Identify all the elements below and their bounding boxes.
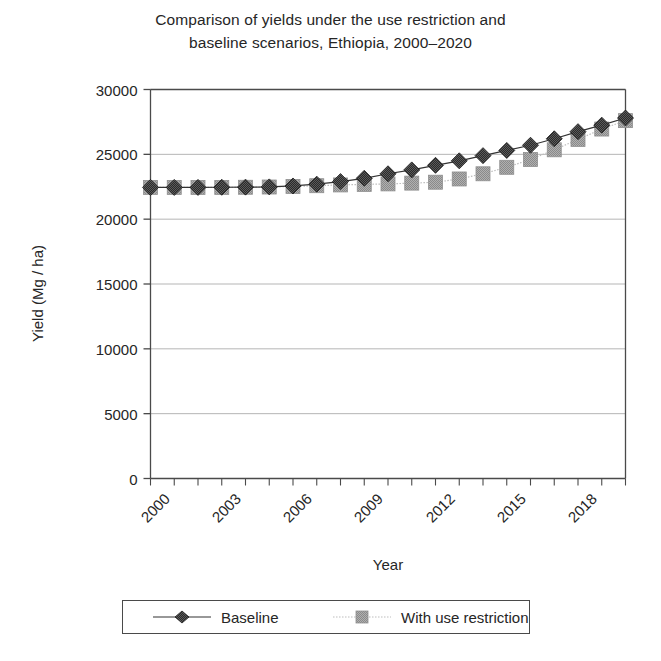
square-marker-icon bbox=[331, 609, 393, 625]
y-tick-label: 10000 bbox=[40, 340, 138, 357]
y-axis-ticks bbox=[144, 90, 151, 479]
y-tick-label: 25000 bbox=[40, 146, 138, 163]
diamond-marker-icon bbox=[151, 609, 213, 625]
legend-entry-with-use-restriction: With use restriction bbox=[331, 601, 529, 633]
y-tick-label: 15000 bbox=[40, 276, 138, 293]
chart-figure: Comparison of yields under the use restr… bbox=[0, 0, 661, 661]
y-tick-label: 5000 bbox=[40, 405, 138, 422]
x-axis-ticks bbox=[151, 479, 626, 486]
legend-entry-baseline: Baseline bbox=[151, 601, 279, 633]
y-tick-label: 30000 bbox=[40, 81, 138, 98]
legend-label-with-use-restriction: With use restriction bbox=[401, 609, 529, 626]
chart-legend: Baseline With use restriction bbox=[122, 600, 530, 634]
y-tick-label: 20000 bbox=[40, 211, 138, 228]
y-tick-label: 0 bbox=[40, 470, 138, 487]
legend-label-baseline: Baseline bbox=[221, 609, 279, 626]
